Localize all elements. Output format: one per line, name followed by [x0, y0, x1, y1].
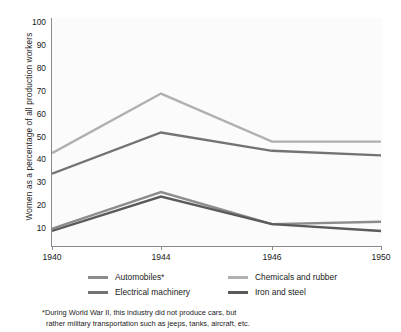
legend-label-iron-and-steel: Iron and steel	[255, 287, 306, 297]
series-line-iron-and-steel	[52, 197, 381, 231]
y-tick-10: 10	[24, 224, 46, 232]
footnote-line-2: rather military transportation such as j…	[42, 319, 372, 330]
legend-label-chemicals-and-rubber: Chemicals and rubber	[255, 272, 337, 282]
y-tick-100: 100	[24, 18, 46, 26]
series-line-electrical-machinery	[52, 133, 381, 174]
chart-legend: Automobiles* Electrical machinery Chemic…	[0, 270, 401, 304]
y-axis-spine	[51, 18, 52, 247]
y-tick-30: 30	[24, 178, 46, 186]
y-tick-60: 60	[24, 110, 46, 118]
x-axis-spine	[51, 246, 382, 247]
legend-label-electrical-machinery: Electrical machinery	[115, 287, 190, 297]
footnote-line-1: *During World War II, this industry did …	[42, 308, 372, 319]
legend-item-iron-and-steel[interactable]: Iron and steel	[228, 287, 306, 297]
legend-label-automobiles: Automobiles*	[115, 272, 164, 282]
legend-item-chemicals-and-rubber[interactable]: Chemicals and rubber	[228, 272, 337, 282]
y-tick-50: 50	[24, 133, 46, 141]
series-lines	[52, 18, 382, 247]
legend-swatch-electrical-machinery	[88, 291, 108, 294]
y-tick-40: 40	[24, 155, 46, 163]
legend-swatch-automobiles	[88, 276, 108, 279]
legend-swatch-chemicals-and-rubber	[228, 276, 248, 279]
y-tick-80: 80	[24, 64, 46, 72]
x-tickmark-1950	[381, 246, 382, 250]
chart-figure: Women as a percentage of all production …	[0, 0, 401, 332]
x-tick-1950: 1950	[361, 252, 401, 262]
x-tickmark-1946	[272, 246, 273, 250]
chart-footnote: *During World War II, this industry did …	[42, 308, 372, 329]
x-tickmark-1944	[161, 246, 162, 250]
x-tick-1940: 1940	[32, 252, 72, 262]
x-tickmark-1940	[52, 246, 53, 250]
legend-item-automobiles[interactable]: Automobiles*	[88, 272, 164, 282]
lines-canvas	[52, 18, 382, 247]
legend-item-electrical-machinery[interactable]: Electrical machinery	[88, 287, 190, 297]
y-axis-tick-labels: 100 90 80 70 60 50 40 30 20 10	[24, 0, 46, 268]
y-tick-70: 70	[24, 87, 46, 95]
y-tick-20: 20	[24, 201, 46, 209]
background-watermark	[188, 58, 197, 89]
x-tick-1944: 1944	[141, 252, 181, 262]
series-line-chemicals-and-rubber	[52, 94, 381, 154]
chart-plot-area: Women as a percentage of all production …	[0, 0, 401, 268]
x-tick-1946: 1946	[252, 252, 292, 262]
y-tick-90: 90	[24, 41, 46, 49]
legend-swatch-iron-and-steel	[228, 291, 248, 294]
